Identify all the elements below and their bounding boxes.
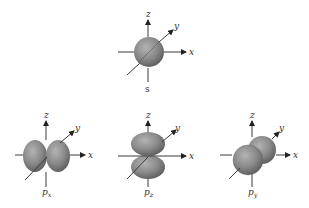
orbital-label-s: s <box>145 84 150 94</box>
z-axis-label: z <box>249 110 255 120</box>
y-axis <box>162 130 176 142</box>
x-axis-label: x <box>88 150 93 160</box>
px-lobe-left-icon <box>23 140 47 172</box>
pz-lobe-bottom-icon <box>131 155 165 179</box>
y-axis <box>159 30 173 42</box>
y-axis-label: y <box>74 123 81 133</box>
y-axis <box>60 131 74 143</box>
orbital-label-px: px <box>42 187 52 199</box>
y-axis-label: y <box>278 123 285 133</box>
orbital-label-pz: pz <box>144 187 154 199</box>
px-orbital: z y x px <box>15 110 93 199</box>
z-axis-label: z <box>145 9 151 19</box>
px-lobe-right-icon <box>46 140 70 172</box>
pz-lobe-top-icon <box>131 132 165 156</box>
y-axis-label: y <box>173 21 180 31</box>
z-axis-label: z <box>43 110 49 120</box>
orbital-label-py: py <box>248 187 258 199</box>
pz-orbital: z y x pz <box>118 110 194 199</box>
y-axis-lower <box>127 63 140 75</box>
x-axis-label: x <box>293 150 298 160</box>
y-axis-lower <box>229 168 240 179</box>
x-axis-label: x <box>189 151 194 161</box>
s-orbital: z y x s <box>118 9 194 94</box>
py-orbital: z y x py <box>220 110 298 199</box>
z-axis-label: z <box>145 110 151 120</box>
orbital-diagram: z y x s z y x px z y x pz <box>0 0 309 208</box>
y-axis-label: y <box>174 123 181 133</box>
y-axis <box>272 132 279 139</box>
x-axis-label: x <box>189 47 194 57</box>
